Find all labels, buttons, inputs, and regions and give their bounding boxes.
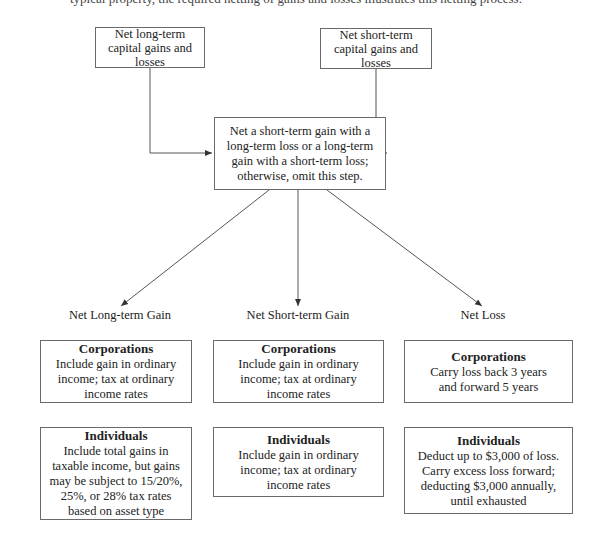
box-net-long-term: Net long-term capital gains and losses: [95, 27, 205, 68]
netting-step-text: Net a short-term gain with a long-term l…: [223, 124, 377, 184]
individuals-text: Deduct up to $3,000 of loss. Carry exces…: [409, 449, 568, 509]
arrow-center-to-net-loss: [327, 190, 482, 306]
box-net-short-term: Net short-term capital gains and losses: [320, 28, 432, 69]
box-net-short-term-text: Net short-term capital gains and losses: [325, 28, 427, 70]
box-net-long-term-text: Net long-term capital gains and losses: [100, 27, 200, 69]
box-individuals-short-term: Individuals Include gain in ordinary inc…: [213, 427, 384, 497]
label-net-loss: Net Loss: [418, 308, 548, 323]
individuals-title: Individuals: [218, 432, 379, 448]
box-corporations-net-loss: Corporations Carry loss back 3 years and…: [404, 340, 573, 403]
label-net-long-term-gain: Net Long-term Gain: [40, 308, 200, 323]
corporations-text: Carry loss back 3 years and forward 5 ye…: [409, 365, 568, 395]
arrow-long-term-to-center: [150, 67, 212, 153]
box-netting-step: Net a short-term gain with a long-term l…: [214, 117, 386, 190]
corporations-title: Corporations: [45, 341, 187, 357]
arrow-center-to-long-term-gain: [121, 190, 269, 306]
box-corporations-short-term: Corporations Include gain in ordinary in…: [213, 340, 384, 403]
box-corporations-long-term: Corporations Include gain in ordinary in…: [40, 340, 192, 403]
box-individuals-long-term: Individuals Include total gains in taxab…: [40, 427, 192, 520]
corporations-title: Corporations: [409, 349, 568, 365]
individuals-title: Individuals: [409, 433, 568, 449]
corporations-title: Corporations: [218, 341, 379, 357]
individuals-title: Individuals: [45, 428, 187, 444]
corporations-text: Include gain in ordinary income; tax at …: [45, 357, 187, 402]
corporations-text: Include gain in ordinary income; tax at …: [218, 357, 379, 402]
individuals-text: Include gain in ordinary income; tax at …: [218, 448, 379, 493]
label-net-short-term-gain: Net Short-term Gain: [218, 308, 378, 323]
individuals-text: Include total gains in taxable income, b…: [45, 444, 187, 519]
box-individuals-net-loss: Individuals Deduct up to $3,000 of loss.…: [404, 427, 573, 514]
